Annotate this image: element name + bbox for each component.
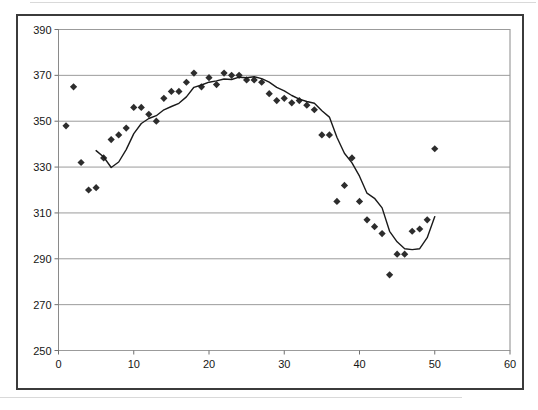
page: 2502702903103303503703900102030405060: [0, 0, 538, 410]
x-axis-label: 30: [278, 358, 290, 370]
y-axis-label: 350: [33, 115, 51, 127]
y-axis-label: 370: [33, 69, 51, 81]
x-axis-label: 60: [504, 358, 516, 370]
y-axis-label: 310: [33, 207, 51, 219]
x-axis-label: 40: [353, 358, 365, 370]
y-axis-label: 250: [33, 345, 51, 357]
x-axis-label: 0: [55, 358, 61, 370]
plot-area-border: [59, 30, 511, 351]
y-axis-label: 270: [33, 299, 51, 311]
x-axis-label: 10: [128, 358, 140, 370]
scatter-chart: 2502702903103303503703900102030405060: [0, 0, 538, 410]
y-axis-label: 330: [33, 161, 51, 173]
x-axis-label: 50: [429, 358, 441, 370]
y-axis-label: 290: [33, 253, 51, 265]
x-axis-label: 20: [203, 358, 215, 370]
y-axis-label: 390: [33, 24, 51, 36]
